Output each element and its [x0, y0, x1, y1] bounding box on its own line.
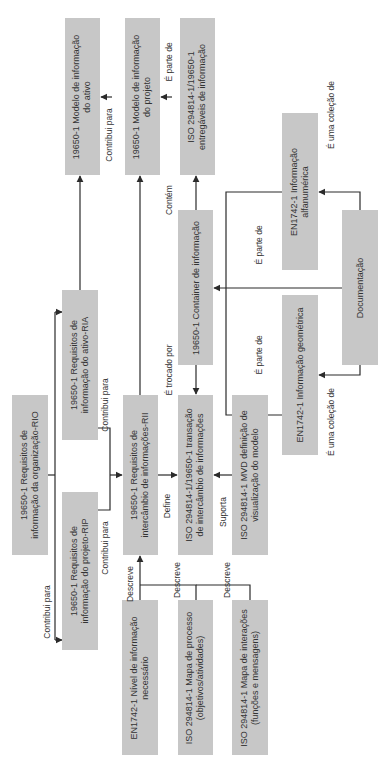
box-mvd-line2: visualização do modelo [250, 428, 260, 522]
box-mapa-interacoes-line1: ISO 294814-1 Mapa de interações [239, 609, 249, 747]
label-define: Define [162, 493, 172, 518]
box-nivel: EN1742-1 Nível de informação necessário [122, 600, 158, 755]
arrow-documentacao-geo [319, 365, 360, 375]
label-descreve-1: Descreve [125, 566, 135, 602]
box-geometrica-line1: EN1742-1 Informação geométrica [295, 307, 305, 442]
box-rii-line1: 19650-1 Requisitos de [129, 430, 139, 520]
label-contribui-ria: Contribui para [100, 378, 110, 432]
box-rio-line2: informação da organização-RIO [30, 411, 40, 539]
arrow-documentacao-alfa [319, 192, 360, 210]
box-rip: 19650-1 Requisitos de informação do proj… [62, 492, 98, 650]
box-modelo-projeto-line1: 19650-1 Modelo de informação [131, 35, 141, 160]
box-nivel-line1: EN1742-1 Nível de informação [129, 616, 139, 739]
box-mapa-interacoes-line2: (funções e mensagens) [250, 631, 260, 725]
box-transacao-line2: de intercâmbio de informações [195, 413, 205, 537]
box-mapa-processo-line1: ISO 294814-1 Mapa de processo [184, 612, 194, 745]
box-entregaveis-line2: entregáveis de informação [197, 44, 207, 150]
box-alfanumerica-line2: alfanumérica [300, 166, 310, 218]
box-documentacao-line1: Documentação [355, 258, 365, 319]
label-descreve-2: Descreve [172, 562, 182, 598]
connector-processo-rii [140, 585, 196, 600]
box-rii: 19650-1 Requisitos de intercâmbio de inf… [123, 395, 158, 555]
box-rii-line2: intercâmbio de informações-RII [140, 412, 150, 537]
box-modelo-ativo: 19650-1 Modelo de informação do ativo [65, 18, 100, 175]
label-e-uma-colecao-alfa: É uma coleção de [326, 81, 336, 149]
information-requirements-diagram: 19650-1 Requisitos de informação da orga… [0, 0, 392, 782]
box-modelo-ativo-line2: do ativo [82, 81, 92, 113]
box-alfanumerica-line1: EN1742-1 Informação [289, 148, 299, 236]
box-rio-line1: 19650-1 Requisitos de [19, 430, 29, 520]
box-alfanumerica: EN1742-1 Informação alfanumérica [282, 113, 318, 270]
label-e-uma-colecao-geo: É uma coleção de [326, 388, 336, 456]
box-ria-line2: informação do ativo-RIA [80, 317, 90, 414]
label-e-parte-de-alfa: É parte de [254, 225, 264, 264]
box-rio: 19650-1 Requisitos de informação da orga… [12, 395, 48, 555]
connector-rip-rii [98, 475, 110, 510]
box-ria: 19650-1 Requisitos de informação do ativ… [62, 290, 98, 440]
box-ria-line1: 19650-1 Requisitos de [69, 320, 79, 410]
box-rip-line2: informação do projeto-RIP [80, 518, 90, 623]
box-documentacao: Documentação [342, 210, 378, 365]
box-modelo-projeto: 19650-1 Modelo de informação do projeto [125, 18, 160, 175]
label-e-trocado-por: É trocado por [164, 344, 174, 395]
label-contribui-rip: Contribui para [100, 521, 110, 575]
label-e-parte-de-entregaveis: É parte de [164, 42, 174, 81]
box-mapa-interacoes: ISO 294814-1 Mapa de interações (funções… [232, 600, 268, 755]
box-transacao-line1: ISO 294814-1/19650-1 transação [184, 408, 194, 542]
label-contem: Contém [164, 185, 174, 215]
box-modelo-projeto-line2: do projeto [142, 77, 152, 117]
box-container-line1: 19650-1 Container de informação [191, 221, 201, 355]
label-contribui-modelo: Contribui para [104, 108, 114, 162]
box-rip-line1: 19650-1 Requisitos de [69, 526, 79, 616]
box-mapa-processo-line2: (objetivos/atividades) [195, 636, 205, 721]
label-contribui-rio: Contribui para [42, 585, 52, 639]
box-modelo-ativo-line1: 19650-1 Modelo de informação [71, 35, 81, 160]
box-nivel-line2: necessário [140, 656, 150, 700]
connector-ria-rii [98, 428, 110, 475]
box-entregaveis: ISO 294814-1/19650-1 entregáveis de info… [180, 18, 215, 175]
label-e-parte-de-geo: É parte de [254, 335, 264, 374]
box-mvd-line1: ISO 294814-1 MVD definição de [239, 410, 249, 540]
box-mvd: ISO 294814-1 MVD definição de visualizaç… [232, 395, 268, 555]
box-entregaveis-line1: ISO 294814-1/19650-1 [186, 51, 196, 143]
box-geometrica: EN1742-1 Informação geométrica [282, 295, 318, 455]
label-descreve-3: Descreve [222, 562, 232, 598]
box-container: 19650-1 Container de informação [178, 210, 213, 365]
box-mapa-processo: ISO 294814-1 Mapa de processo (objetivos… [178, 600, 213, 755]
label-suporta: Suporta [218, 497, 228, 527]
box-transacao: ISO 294814-1/19650-1 transação de interc… [178, 395, 213, 555]
